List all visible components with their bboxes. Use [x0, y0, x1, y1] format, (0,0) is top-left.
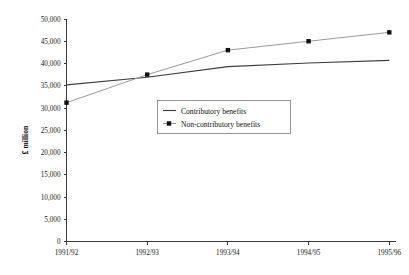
y-tick-label: 40,000 [41, 60, 61, 68]
legend-label-contributory: Contributory benefits [181, 107, 246, 116]
series-layer [64, 30, 391, 105]
x-tick-label: 1991/92 [55, 249, 79, 257]
y-tick-label: 10,000 [41, 194, 61, 202]
data-point-marker [306, 39, 310, 43]
y-tick-label: 25,000 [41, 127, 61, 135]
data-point-marker [226, 48, 230, 52]
series-line-non-contributory [67, 32, 390, 102]
data-point-marker [64, 100, 68, 104]
legend-box [158, 101, 291, 134]
x-tick-label: 1994/95 [297, 249, 321, 257]
y-axis-ticks: 05,00010,00015,00020,00025,00030,00035,0… [41, 16, 67, 247]
y-tick-label: 50,000 [41, 16, 61, 24]
data-point-marker [387, 30, 391, 34]
chart-legend: Contributory benefits Non-contributory b… [158, 101, 291, 134]
legend-label-noncontributory: Non-contributory benefits [181, 120, 260, 129]
y-tick-label: 15,000 [41, 171, 61, 179]
y-tick-label: 30,000 [41, 105, 61, 113]
legend-marker-noncontributory [167, 121, 171, 125]
x-tick-label: 1992/93 [135, 249, 159, 257]
y-tick-label: 0 [57, 238, 61, 246]
x-tick-label: 1995/96 [378, 249, 402, 257]
line-chart: £ million 05,00010,00015,00020,00025,000… [0, 0, 409, 275]
y-tick-label: 20,000 [41, 149, 61, 157]
x-axis-ticks: 1991/921992/931993/941994/951995/96 [55, 242, 402, 257]
y-axis-title: £ million [21, 125, 30, 154]
y-tick-label: 45,000 [41, 38, 61, 46]
chart-container: £ million 05,00010,00015,00020,00025,000… [0, 0, 409, 275]
y-axis-title-text: £ million [21, 125, 30, 154]
data-point-marker [145, 72, 149, 76]
y-tick-label: 35,000 [41, 82, 61, 90]
y-tick-label: 5,000 [44, 216, 61, 224]
series-line-contributory [67, 60, 390, 84]
x-tick-label: 1993/94 [216, 249, 240, 257]
